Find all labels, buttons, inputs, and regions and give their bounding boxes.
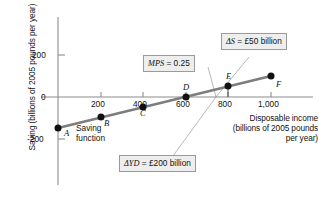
y-tick-label-neg200: -200 [27, 134, 44, 144]
saving-function-chart: Saving (billions of 2005 pounds per year… [0, 0, 319, 198]
data-point-e [225, 83, 232, 90]
delta-s-callout-symbol: ΔS [226, 37, 235, 46]
point-label-c: C [140, 108, 146, 118]
delta-s-callout: ΔS = £50 billion [221, 33, 287, 50]
saving-function-label-line2: function [76, 133, 105, 143]
delta-yd-callout-value: = £200 billion [139, 158, 190, 168]
delta-yd-callout: ΔYD = £200 billion [119, 155, 196, 172]
point-label-e: E [226, 71, 231, 81]
x-axis-title: Disposable income (billions of 2005 poun… [196, 113, 318, 143]
x-axis-title-line1: Disposable income [196, 113, 318, 123]
point-label-d: D [183, 82, 189, 92]
x-tick-label-600: 600 [176, 99, 190, 109]
mps-callout-symbol: MPS [148, 59, 164, 68]
saving-function-label-line1: Saving [76, 123, 105, 133]
saving-function-label: Saving function [76, 123, 105, 143]
x-axis-title-line2: (billions of 2005 pounds [196, 123, 318, 133]
data-point-f [268, 73, 275, 80]
point-label-a: A [64, 128, 69, 138]
delta-yd-callout-symbol: ΔYD [124, 159, 139, 168]
y-tick-label-200: 200 [32, 50, 46, 60]
data-point-a [55, 125, 62, 132]
mps-callout: MPS = 0.25 [143, 55, 195, 72]
x-tick-label-1000: 1,000 [258, 99, 279, 109]
point-label-f: F [276, 79, 281, 89]
mps-callout-value: = 0.25 [164, 58, 190, 68]
mps-leader-line [208, 67, 216, 97]
x-tick-label-200: 200 [91, 99, 105, 109]
x-axis-title-line3: per year) [196, 133, 318, 143]
delta-s-callout-value: = £50 billion [235, 36, 282, 46]
x-tick-label-800: 800 [218, 99, 232, 109]
delta-s-leader-line [216, 57, 249, 97]
y-tick-label-0: 0 [41, 92, 46, 102]
